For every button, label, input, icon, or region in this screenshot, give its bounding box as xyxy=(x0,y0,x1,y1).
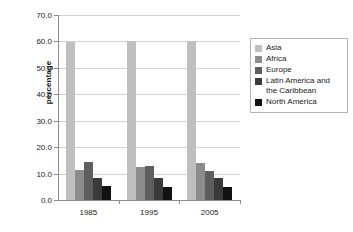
gridline xyxy=(58,121,240,122)
bar xyxy=(66,42,75,200)
bar xyxy=(145,166,154,200)
x-axis-line xyxy=(58,200,240,201)
x-tick-mark xyxy=(179,200,180,204)
legend-item-label: Africa xyxy=(266,54,286,64)
legend-item-label: Europe xyxy=(266,65,292,75)
bar xyxy=(205,171,214,200)
y-tick-label: 0.0 xyxy=(41,196,52,205)
bar xyxy=(93,178,102,200)
y-tick-label: 20.0 xyxy=(36,143,52,152)
x-tick-label: 1995 xyxy=(140,208,158,217)
legend-swatch-icon xyxy=(255,56,262,63)
gridline xyxy=(58,15,240,16)
legend-item: Africa xyxy=(255,54,344,64)
y-tick-mark xyxy=(54,94,58,95)
gridline xyxy=(58,94,240,95)
legend-item: Asia xyxy=(255,43,344,53)
chart-legend: AsiaAfricaEuropeLatin America and the Ca… xyxy=(250,38,348,113)
legend-swatch-icon xyxy=(255,45,262,52)
y-tick-mark xyxy=(54,200,58,201)
bar xyxy=(187,41,196,200)
y-tick-mark xyxy=(54,174,58,175)
x-tick-label: 1985 xyxy=(79,208,97,217)
y-tick-mark xyxy=(54,41,58,42)
bar xyxy=(196,163,205,200)
legend-item: Latin America and the Caribbean xyxy=(255,76,344,96)
bar-chart-figure: percentage 0.010.020.030.040.050.060.070… xyxy=(0,0,353,232)
plot-area: 0.010.020.030.040.050.060.070.0 19851995… xyxy=(58,15,240,200)
legend-swatch-icon xyxy=(255,78,262,85)
legend-item: Europe xyxy=(255,65,344,75)
y-tick-mark xyxy=(54,147,58,148)
legend-item-label: Latin America and the Caribbean xyxy=(266,76,330,96)
legend-swatch-icon xyxy=(255,99,262,106)
y-tick-label: 50.0 xyxy=(36,63,52,72)
x-tick-label: 2005 xyxy=(201,208,219,217)
gridline xyxy=(58,147,240,148)
x-tick-mark xyxy=(240,200,241,204)
x-tick-mark xyxy=(119,200,120,204)
y-axis-line xyxy=(58,15,59,200)
y-axis-title: percentage xyxy=(44,43,53,123)
bar xyxy=(154,178,163,200)
y-tick-label: 70.0 xyxy=(36,11,52,20)
y-tick-label: 10.0 xyxy=(36,169,52,178)
y-tick-label: 60.0 xyxy=(36,37,52,46)
bar xyxy=(127,41,136,200)
bar xyxy=(223,187,232,200)
gridline xyxy=(58,68,240,69)
bar xyxy=(75,170,84,200)
y-tick-mark xyxy=(54,68,58,69)
legend-item-label: North America xyxy=(266,97,317,107)
y-tick-label: 30.0 xyxy=(36,116,52,125)
bar xyxy=(84,162,93,200)
y-tick-mark xyxy=(54,15,58,16)
legend-item-label: Asia xyxy=(266,43,282,53)
bar xyxy=(163,187,172,200)
bar xyxy=(136,167,145,200)
legend-swatch-icon xyxy=(255,67,262,74)
y-tick-mark xyxy=(54,121,58,122)
gridline xyxy=(58,41,240,42)
bar xyxy=(102,186,111,200)
y-tick-label: 40.0 xyxy=(36,90,52,99)
bar xyxy=(214,178,223,200)
legend-item: North America xyxy=(255,97,344,107)
